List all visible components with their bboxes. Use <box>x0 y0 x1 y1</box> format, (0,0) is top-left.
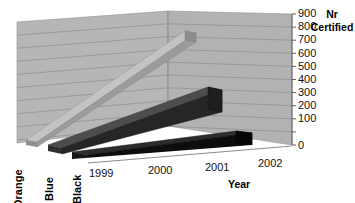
series-axis-label-orange: Orange <box>12 169 24 203</box>
x-axis-tick-2001: 2001 <box>205 162 229 173</box>
x-axis-tick-2000: 2000 <box>148 165 172 176</box>
y-axis-tick-200: 200 <box>298 100 316 111</box>
y-axis-tick-400: 400 <box>298 74 316 85</box>
y-axis-tick-700: 700 <box>298 34 316 45</box>
y-axis-tick-300: 300 <box>298 87 316 98</box>
series-orange-end-cap <box>185 31 196 42</box>
y-axis-tick-600: 600 <box>298 48 316 59</box>
y-axis-tick-0: 0 <box>298 140 304 151</box>
series-blue-end-cap <box>208 87 222 112</box>
series-black-end-cap <box>236 131 252 145</box>
y-axis-tick-500: 500 <box>298 61 316 72</box>
value-axis-title-line1: Nr <box>310 8 354 20</box>
value-axis-title-line2: Certified <box>306 21 355 33</box>
series-axis-label-blue: Blue <box>43 177 55 201</box>
value-axis-ticks <box>292 14 296 145</box>
x-axis-tick-1999: 1999 <box>89 168 113 179</box>
category-axis-title: Year <box>228 178 250 190</box>
y-axis-tick-100: 100 <box>298 113 316 124</box>
series-axis-label-black: Black <box>71 175 83 203</box>
x-axis-tick-2002: 2002 <box>258 158 282 169</box>
chart-3d-area: 900 800 700 600 500 400 300 200 100 0 Nr… <box>0 0 355 203</box>
